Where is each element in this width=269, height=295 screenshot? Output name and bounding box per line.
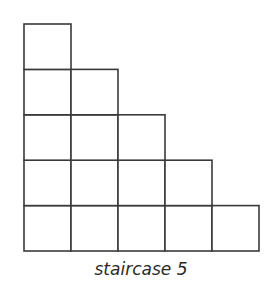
staircase-cell [71,115,118,160]
staircase-cell [212,206,259,251]
staircase-cell [24,69,71,114]
staircase-cell [118,160,165,205]
staircase-cell [165,160,212,205]
staircase-cell [71,69,118,114]
staircase-cell [24,160,71,205]
staircase-cell [24,115,71,160]
staircase-cell [24,24,71,69]
staircase-cell [71,160,118,205]
staircase-cell [118,206,165,251]
staircase-diagram [0,0,269,295]
staircase-cell [118,115,165,160]
diagram-caption: staircase 5 [0,259,269,279]
staircase-cell [165,206,212,251]
staircase-cell [24,206,71,251]
staircase-cell [71,206,118,251]
